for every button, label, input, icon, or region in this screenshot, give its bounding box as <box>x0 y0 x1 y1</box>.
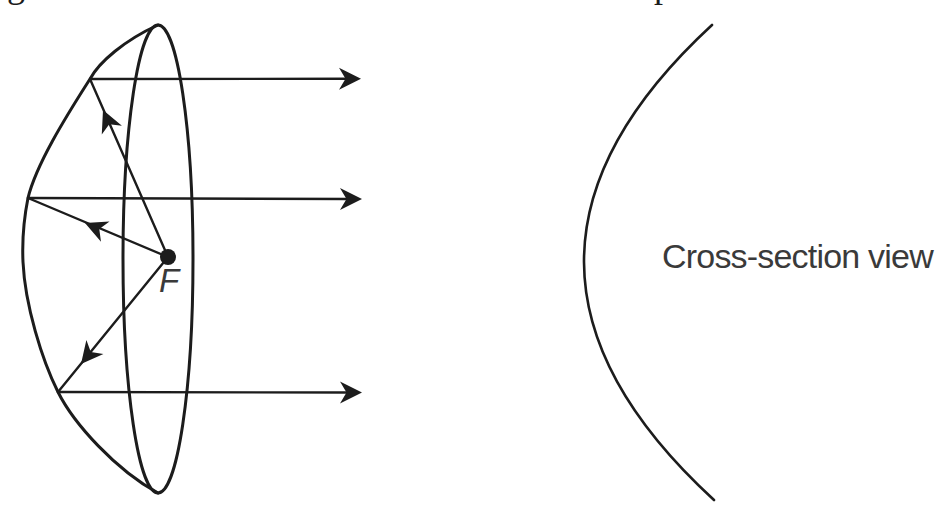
cross-section-figure: Cross-section view <box>584 25 934 500</box>
arrowhead-focal-upper-icon <box>93 106 122 135</box>
paraboloid-dish-figure: F <box>23 25 362 493</box>
reflected-parallel-rays <box>28 68 362 404</box>
arrowhead-focal-lower-icon <box>72 340 103 371</box>
diagram-canvas: g p <box>0 0 938 512</box>
focal-rays <box>28 79 168 392</box>
focal-ray-lower <box>58 257 168 392</box>
reflected-ray-bottom <box>58 392 349 393</box>
figure-parabolic-reflector: g p <box>0 0 938 512</box>
reflected-ray-middle <box>28 198 349 199</box>
dish-silhouette-curve <box>23 25 158 493</box>
focal-point-label: F <box>159 262 181 299</box>
cropped-caption-fragment-p: p <box>654 0 672 5</box>
arrowhead-focal-middle-icon <box>81 213 110 242</box>
cropped-caption-fragment-g: g <box>7 0 25 5</box>
dish-rim-ellipse <box>123 25 193 493</box>
cross-section-caption: Cross-section view <box>662 237 934 275</box>
